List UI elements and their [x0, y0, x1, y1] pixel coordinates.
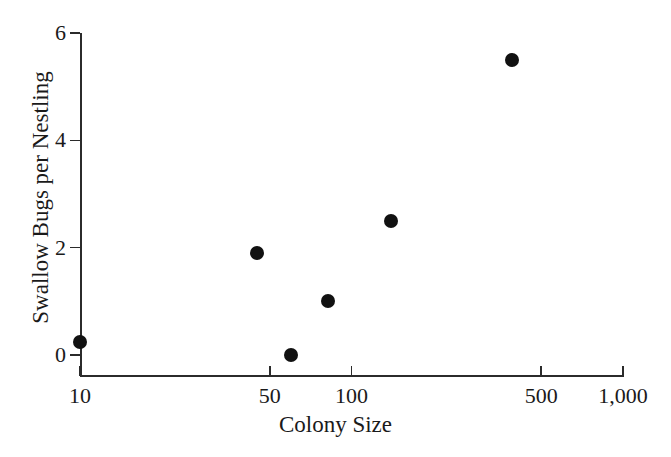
plot-area	[0, 0, 671, 457]
data-point	[284, 348, 298, 362]
x-axis-title: Colony Size	[0, 412, 671, 437]
data-point	[250, 246, 264, 260]
scatter-chart-figure: 0246 10501005001,000 Colony Size Swallow…	[0, 0, 671, 457]
y-axis-title: Swallow Bugs per Nestling	[28, 0, 53, 398]
data-point	[73, 335, 87, 349]
data-point	[384, 214, 398, 228]
data-point	[321, 294, 335, 308]
data-point	[505, 53, 519, 67]
